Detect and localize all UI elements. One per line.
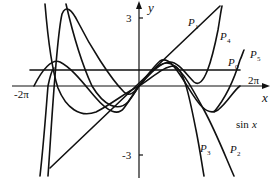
svg-text:sin: sin: [236, 118, 249, 130]
label-p1: P 1: [187, 16, 199, 31]
x-tick-label-2pi: 2π: [248, 74, 260, 86]
y-axis-arrow-icon: [136, 1, 142, 9]
svg-text:P: P: [227, 56, 235, 68]
svg-text:1: 1: [195, 23, 199, 31]
label-p4: P 4: [219, 30, 231, 45]
svg-text:P: P: [187, 16, 195, 28]
svg-text:3: 3: [207, 149, 211, 157]
svg-text:5: 5: [257, 55, 261, 63]
y-tick-label-neg3: -3: [122, 149, 132, 161]
label-p0: P 0: [227, 56, 239, 71]
curve-p4: [48, 6, 222, 176]
x-axis-label: x: [261, 90, 268, 105]
y-axis-label: y: [146, 0, 154, 15]
taylor-diagram: 3 -3 -2π 2π x y P 1 P 4 P 5 P 0 P 3 P 2 …: [0, 0, 275, 180]
x-axis-arrow-icon: [262, 83, 270, 89]
svg-text:2: 2: [237, 150, 241, 158]
svg-text:P: P: [249, 48, 257, 60]
svg-text:4: 4: [227, 37, 231, 45]
svg-text:x: x: [251, 118, 257, 130]
label-p5: P 5: [249, 48, 261, 63]
label-sinx: sin x: [236, 118, 257, 130]
svg-text:P: P: [199, 142, 207, 154]
label-p2: P 2: [229, 143, 241, 158]
y-tick-label-3: 3: [126, 12, 132, 24]
x-tick-label-neg2pi: -2π: [14, 88, 29, 100]
svg-text:0: 0: [235, 63, 239, 71]
svg-text:P: P: [219, 30, 227, 42]
svg-text:P: P: [229, 143, 237, 155]
